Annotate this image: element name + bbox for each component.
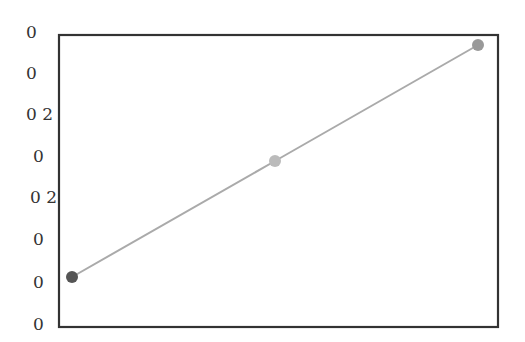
line-chart: 0 0 0 2 0 0 2 0 0 0 — [0, 0, 525, 342]
series-layer — [66, 39, 484, 283]
plot-frame — [59, 35, 498, 327]
data-point-marker — [66, 271, 78, 283]
plot-area — [0, 0, 525, 342]
data-point-marker — [472, 39, 484, 51]
data-point-marker — [269, 155, 281, 167]
